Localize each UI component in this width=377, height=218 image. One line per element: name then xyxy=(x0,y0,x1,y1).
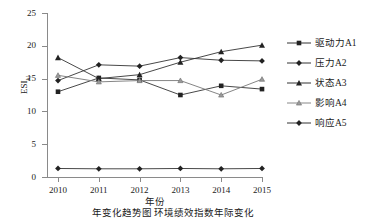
x-axis-title: 年份 xyxy=(95,197,215,208)
data-point-marker xyxy=(137,63,143,69)
data-point-marker xyxy=(178,78,183,83)
data-point-marker xyxy=(178,166,184,172)
y-tick-label: 0 xyxy=(14,173,36,182)
legend-label: 影响A4 xyxy=(312,98,347,109)
legend-label: 状态A3 xyxy=(312,78,347,89)
x-tick-mark xyxy=(221,177,222,182)
series-3 xyxy=(55,42,265,81)
y-tick-mark xyxy=(42,46,47,47)
data-point-marker xyxy=(137,166,143,172)
series-5 xyxy=(55,166,265,172)
data-point-marker xyxy=(259,58,265,64)
y-axis-line xyxy=(47,13,48,178)
esi-line-chart-figure: 0510152025 201020112012201320142015 ESIk… xyxy=(0,0,377,218)
legend-label: 响应A5 xyxy=(312,118,347,129)
data-point-marker xyxy=(218,49,224,55)
figure-caption: 年变化趋势图 环境绩效指数年际变化 xyxy=(92,208,377,218)
data-point-marker xyxy=(96,79,101,84)
data-point-marker xyxy=(218,166,224,172)
y-tick-mark xyxy=(42,79,47,80)
series-line xyxy=(58,45,262,78)
y-tick-mark xyxy=(42,111,47,112)
y-tick-label: 25 xyxy=(14,9,36,18)
data-point-marker xyxy=(218,57,224,63)
data-point-marker xyxy=(178,55,184,61)
x-tick-label: 2014 xyxy=(201,185,241,195)
legend-item-3[interactable]: 状态A3 xyxy=(286,73,377,93)
data-point-marker xyxy=(178,93,183,98)
data-point-marker xyxy=(137,78,142,83)
data-point-marker xyxy=(137,78,142,83)
x-tick-mark xyxy=(180,177,181,182)
y-axis-title: ESIkj xyxy=(19,55,33,115)
data-point-marker xyxy=(96,166,102,172)
legend-label: 驱动力A1 xyxy=(312,38,357,49)
x-axis-line xyxy=(47,177,263,178)
series-2 xyxy=(55,55,265,84)
y-tick-label: 20 xyxy=(14,41,36,50)
x-tick-mark xyxy=(262,177,263,182)
data-point-marker xyxy=(177,59,183,65)
data-point-marker xyxy=(137,72,143,78)
x-tick-label: 2011 xyxy=(79,185,119,195)
series-1 xyxy=(56,76,265,98)
x-tick-label: 2015 xyxy=(242,185,282,195)
data-point-marker xyxy=(96,62,102,68)
data-point-marker xyxy=(97,76,102,81)
x-tick-mark xyxy=(58,177,59,182)
data-point-marker xyxy=(260,87,265,92)
legend-marker-icon xyxy=(286,77,312,89)
data-point-marker xyxy=(55,166,61,172)
data-point-marker xyxy=(96,76,102,82)
data-point-marker xyxy=(55,55,61,61)
data-point-marker xyxy=(55,78,61,84)
series-4 xyxy=(55,73,264,97)
x-tick-mark xyxy=(99,177,100,182)
legend-marker-icon xyxy=(286,37,312,49)
data-point-marker xyxy=(56,89,61,94)
legend-label: 压力A2 xyxy=(312,58,347,69)
data-point-marker xyxy=(259,77,264,82)
legend-item-5[interactable]: 响应A5 xyxy=(286,113,377,133)
data-point-marker xyxy=(219,92,224,97)
y-tick-mark xyxy=(42,144,47,145)
legend-item-2[interactable]: 压力A2 xyxy=(286,53,377,73)
series-line xyxy=(58,78,262,95)
y-tick-mark xyxy=(42,13,47,14)
x-tick-label: 2012 xyxy=(120,185,160,195)
y-tick-mark xyxy=(42,177,47,178)
x-tick-mark xyxy=(140,177,141,182)
data-point-marker xyxy=(55,73,60,78)
x-tick-label: 2013 xyxy=(160,185,200,195)
legend-marker-icon xyxy=(286,57,312,69)
legend-item-1[interactable]: 驱动力A1 xyxy=(286,33,377,53)
y-axis-title-subscript: kj xyxy=(25,76,31,81)
series-line xyxy=(58,75,262,95)
data-point-marker xyxy=(259,166,265,172)
data-point-marker xyxy=(259,42,265,48)
y-axis-title-text: ESI xyxy=(19,80,29,94)
legend-marker-icon xyxy=(286,97,312,109)
legend-marker-icon xyxy=(286,117,312,129)
y-tick-label: 5 xyxy=(14,140,36,149)
x-tick-label: 2010 xyxy=(38,185,78,195)
legend-item-4[interactable]: 影响A4 xyxy=(286,93,377,113)
data-point-marker xyxy=(219,84,224,89)
chart-legend: 驱动力A1压力A2状态A3影响A4响应A5 xyxy=(286,33,377,133)
series-line xyxy=(58,58,262,81)
